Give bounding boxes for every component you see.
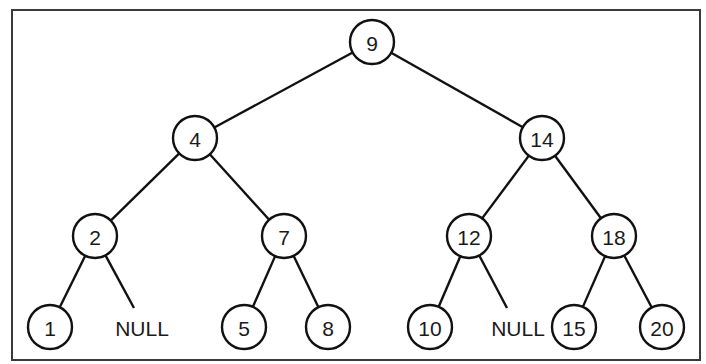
tree-node-10: 10 bbox=[408, 305, 452, 349]
tree-node-15: 15 bbox=[552, 305, 596, 349]
tree-edges bbox=[60, 52, 652, 308]
tree-node-2: 2 bbox=[73, 214, 117, 258]
tree-edge bbox=[624, 255, 651, 307]
tree-edge bbox=[210, 154, 269, 219]
tree-edge bbox=[60, 256, 85, 308]
tree-node-1: 1 bbox=[28, 305, 72, 349]
tree-edge bbox=[479, 255, 507, 308]
tree-node-9: 9 bbox=[350, 20, 394, 64]
tree-node-20: 20 bbox=[640, 305, 684, 349]
null-leaf-label: NULL bbox=[115, 317, 169, 340]
tree-edge bbox=[583, 256, 605, 307]
node-label: 12 bbox=[457, 226, 480, 249]
node-label: 15 bbox=[562, 317, 585, 340]
tree-node-12: 12 bbox=[447, 214, 491, 258]
tree-node-7: 7 bbox=[262, 214, 306, 258]
binary-tree-diagram: 9414271218158101520 NULLNULL bbox=[0, 0, 706, 364]
node-label: 20 bbox=[650, 317, 673, 340]
tree-node-4: 4 bbox=[173, 116, 217, 160]
node-label: 14 bbox=[530, 128, 554, 151]
tree-edge bbox=[439, 256, 461, 307]
node-label: 18 bbox=[602, 226, 625, 249]
node-label: 8 bbox=[322, 317, 334, 340]
tree-edge bbox=[391, 53, 523, 127]
node-label: 10 bbox=[418, 317, 441, 340]
tree-node-18: 18 bbox=[592, 214, 636, 258]
tree-edge bbox=[253, 256, 275, 307]
tree-edge bbox=[555, 156, 601, 219]
tree-edge bbox=[482, 156, 529, 219]
tree-edge bbox=[111, 153, 180, 220]
diagram-frame bbox=[12, 10, 700, 360]
tree-edge bbox=[294, 256, 319, 307]
node-label: 7 bbox=[278, 226, 290, 249]
node-label: 5 bbox=[238, 317, 250, 340]
tree-node-8: 8 bbox=[306, 305, 350, 349]
node-label: 1 bbox=[44, 317, 56, 340]
tree-edge bbox=[105, 255, 134, 308]
node-label: 9 bbox=[366, 32, 378, 55]
tree-edge bbox=[214, 52, 352, 127]
null-leaf-label: NULL bbox=[491, 317, 545, 340]
tree-node-14: 14 bbox=[520, 116, 564, 160]
node-label: 2 bbox=[89, 226, 101, 249]
tree-node-5: 5 bbox=[222, 305, 266, 349]
node-label: 4 bbox=[189, 128, 201, 151]
